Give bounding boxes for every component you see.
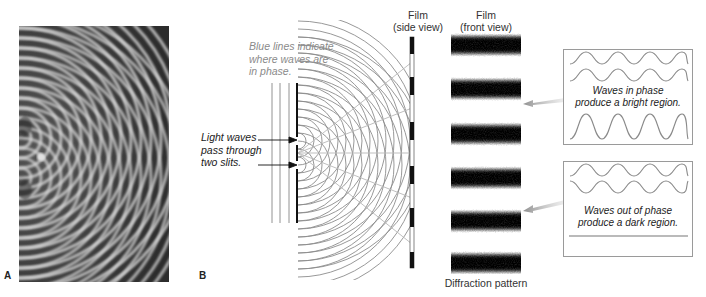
dark-band bbox=[451, 169, 521, 187]
dark-band bbox=[451, 36, 521, 54]
dark-callout-arrow bbox=[523, 200, 565, 214]
heading-line: (side view) bbox=[382, 21, 454, 33]
caption-line: Waves out of phase bbox=[564, 205, 692, 217]
in-phase-caption: Waves in phase produce a bright region. bbox=[564, 85, 692, 109]
caption-line: produce a dark region. bbox=[564, 217, 692, 229]
dark-band bbox=[451, 254, 521, 272]
out-of-phase-explanation-box: Waves out of phase produce a dark region… bbox=[563, 161, 693, 257]
plane-waves bbox=[272, 83, 289, 223]
in-phase-lines bbox=[298, 62, 412, 244]
wavefronts-slit-2 bbox=[240, 37, 420, 280]
panel-a-label: A bbox=[4, 270, 11, 281]
ripple-tank-photo bbox=[19, 26, 169, 282]
out-of-phase-caption: Waves out of phase produce a dark region… bbox=[564, 205, 692, 229]
dark-band bbox=[451, 212, 521, 230]
heading-line: Film bbox=[382, 9, 454, 21]
film-side-view bbox=[410, 37, 414, 268]
film-front-view bbox=[450, 30, 522, 274]
slit-arrows bbox=[258, 137, 297, 168]
diffraction-pattern-caption: Diffraction pattern bbox=[440, 277, 532, 289]
film-side-view-heading: Film (side view) bbox=[382, 9, 454, 33]
dark-band bbox=[451, 80, 521, 98]
caption-line: Waves in phase bbox=[564, 85, 692, 97]
heading-line: Film bbox=[445, 9, 527, 21]
in-phase-explanation-box: Waves in phase produce a bright region. bbox=[563, 49, 693, 145]
bright-callout-arrow bbox=[523, 96, 565, 108]
caption-line: produce a bright region. bbox=[564, 97, 692, 109]
double-slit-wave-diagram bbox=[240, 20, 420, 280]
dark-band bbox=[451, 125, 521, 143]
panel-b-label: B bbox=[199, 270, 206, 281]
